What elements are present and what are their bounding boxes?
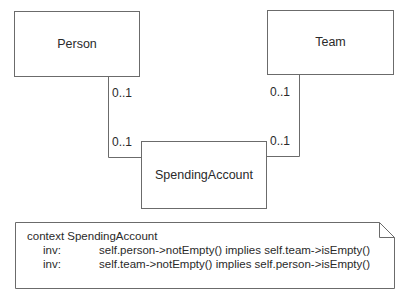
inv-keyword: inv: <box>27 243 99 257</box>
multiplicity-person-end: 0..1 <box>112 86 132 100</box>
class-name-team: Team <box>267 10 394 74</box>
multiplicity-team-end: 0..1 <box>270 85 290 99</box>
inv-expression: self.team->notEmpty() implies self.perso… <box>99 257 370 271</box>
class-name-person: Person <box>14 11 140 77</box>
multiplicity-spending-person-end: 0..1 <box>112 135 132 149</box>
multiplicity-spending-team-end: 0..1 <box>270 134 290 148</box>
inv-keyword: inv: <box>27 257 99 271</box>
inv-expression: self.person->notEmpty() implies self.tea… <box>99 243 370 257</box>
class-name-spending-account: SpendingAccount <box>141 141 267 209</box>
ocl-invariant-1: inv: self.person->notEmpty() implies sel… <box>27 243 370 257</box>
ocl-context: context SpendingAccount <box>27 229 370 243</box>
ocl-invariant-2: inv: self.team->notEmpty() implies self.… <box>27 257 370 271</box>
ocl-note-content: context SpendingAccount inv: self.person… <box>27 229 370 271</box>
